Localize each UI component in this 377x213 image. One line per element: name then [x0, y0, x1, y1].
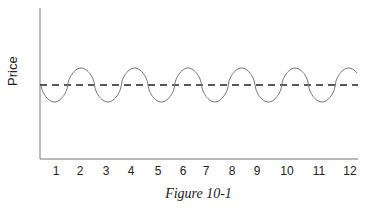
x-tick-label: 4: [128, 164, 135, 178]
x-tick-label: 12: [343, 164, 356, 178]
x-tick-label: 7: [203, 164, 210, 178]
x-tick-label: 8: [229, 164, 236, 178]
x-tick-label: 2: [77, 164, 84, 178]
x-tick-label: 11: [313, 164, 325, 178]
x-tick-label: 9: [254, 164, 261, 178]
y-axis-label: Price: [5, 56, 20, 86]
x-tick-label: 5: [155, 164, 162, 178]
x-tick-label: 1: [53, 164, 60, 178]
figure-caption: Figure 10-1: [0, 186, 377, 202]
price-cycle-chart: [0, 0, 377, 213]
x-tick-label: 3: [103, 164, 110, 178]
x-tick-label: 10: [280, 164, 293, 178]
x-tick-label: 6: [180, 164, 187, 178]
